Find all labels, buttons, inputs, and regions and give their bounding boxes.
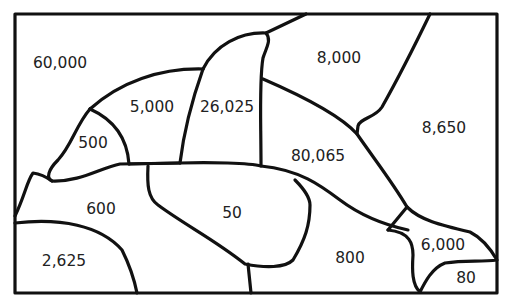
region-label: 2,625 [42,252,86,270]
region-label: 80,065 [291,147,345,165]
left-chin-line [15,173,52,216]
region-label: 8,650 [422,119,466,137]
region-label: 800 [335,249,365,267]
belly-line [129,163,408,230]
region-label: 500 [78,134,108,152]
sky-divider [357,14,430,134]
region-label: 80 [456,269,476,287]
region-label: 60,000 [33,54,87,72]
region-label: 6,000 [421,236,465,254]
region-label: 8,000 [317,49,361,67]
dolphin-region-diagram: 60,000 5,000 26,025 8,000 8,650 500 80,0… [0,0,511,304]
fin-to-top-line [266,14,306,33]
region-label: 5,000 [130,98,174,116]
snout-outline [49,109,180,181]
region-label: 600 [86,200,116,218]
dorsal-front-edge [180,69,203,163]
region-label: 26,025 [200,98,254,116]
region-label: 50 [222,204,242,222]
flipper-to-bottom [248,264,251,293]
